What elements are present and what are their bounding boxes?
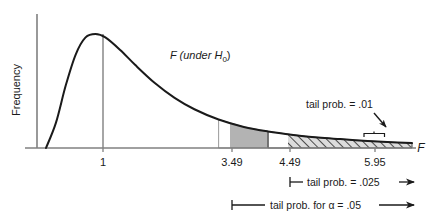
tail-prob-alpha-label: tail prob. for α = .05 [270,199,361,211]
svg-text:F (under H0): F (under H0) [170,49,231,64]
x-tick-label-349: 3.49 [221,156,242,168]
curve-label-f: F (under H [170,49,222,61]
x-tick-label-1: 1 [100,156,106,168]
tail-prob-01-arrow [374,113,386,127]
tail-prob-01-annotation: tail prob. = .01 [306,98,386,137]
curve-label-group: F (under H0) [170,49,231,64]
tail-prob-alpha-annotation: tail prob. for α = .05 [232,199,414,211]
y-axis-label: Frequency [10,64,22,116]
chart-canvas: 1 3.49 4.49 5.95 F Frequency F (under H0… [0,0,438,221]
x-tick-label-595: 5.95 [364,156,385,168]
tail-prob-01-label: tail prob. = .01 [306,98,373,110]
f-distribution-chart-figure: 1 3.49 4.49 5.95 F Frequency F (under H0… [0,0,438,221]
tail-prob-025-label: tail prob. = .025 [307,176,380,188]
tail-prob-025-annotation: tail prob. = .025 [290,176,414,188]
curve-label-paren: ) [227,49,231,61]
tail-prob-01-brace [364,132,385,138]
x-tick-label-449: 4.49 [279,156,300,168]
tail-prob-alpha-text-post: = .05 [334,199,361,211]
x-axis-label: F [417,141,425,155]
tail-prob-alpha-text-pre: tail prob. for [270,199,328,211]
